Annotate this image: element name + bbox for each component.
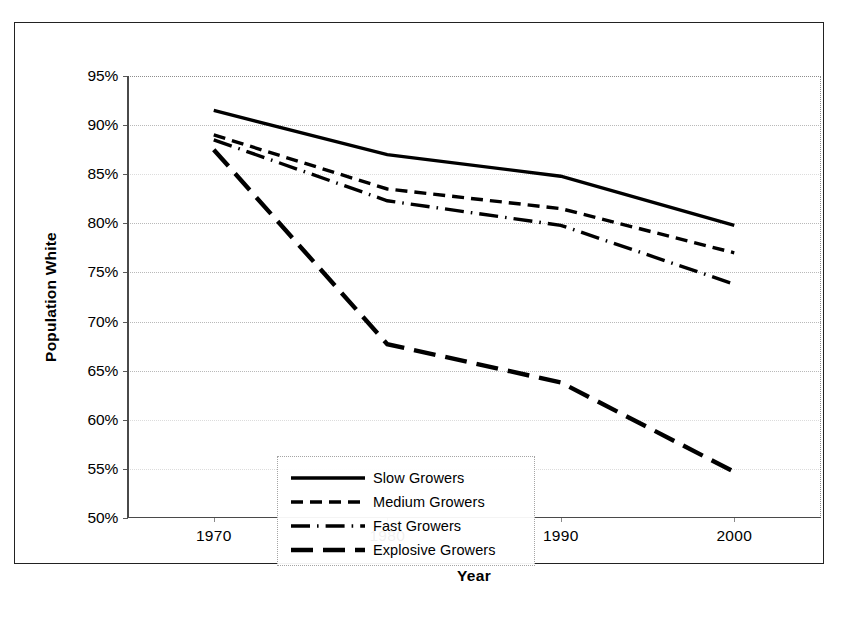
x-tick-label: 1970 bbox=[196, 527, 232, 545]
legend-label: Explosive Growers bbox=[373, 542, 496, 558]
y-tick-label: 75% bbox=[88, 263, 118, 281]
legend-label: Medium Growers bbox=[373, 494, 485, 510]
x-tick-label: 2000 bbox=[716, 527, 752, 545]
legend-label: Slow Growers bbox=[373, 470, 464, 486]
y-tick-label: 50% bbox=[88, 509, 118, 527]
legend-swatch-icon bbox=[290, 543, 366, 557]
legend-item[interactable]: Slow Growers bbox=[278, 466, 534, 490]
legend-item[interactable]: Fast Growers bbox=[278, 514, 534, 538]
y-tick-label: 55% bbox=[88, 460, 118, 478]
y-tick-label: 85% bbox=[88, 165, 118, 183]
series-line bbox=[214, 140, 735, 284]
y-axis-title: Population White bbox=[42, 232, 60, 362]
y-tick-label: 95% bbox=[88, 67, 118, 85]
series-layer bbox=[127, 76, 821, 518]
x-axis-title: Year bbox=[457, 567, 491, 585]
y-tick-label: 65% bbox=[88, 362, 118, 380]
x-tick-label: 1990 bbox=[543, 527, 579, 545]
plot-area: 50%55%60%65%70%75%80%85%90%95% 197019801… bbox=[127, 76, 821, 518]
chart-frame: Population White Year 50%55%60%65%70%75%… bbox=[14, 22, 824, 564]
y-tick-label: 90% bbox=[88, 116, 118, 134]
legend-label: Fast Growers bbox=[373, 518, 461, 534]
legend-swatch-icon bbox=[290, 519, 366, 533]
y-tick-mark bbox=[123, 518, 128, 519]
legend-item[interactable]: Explosive Growers bbox=[278, 538, 534, 562]
legend-swatch-icon bbox=[290, 471, 366, 485]
legend-swatch-icon bbox=[290, 495, 366, 509]
y-tick-label: 80% bbox=[88, 214, 118, 232]
legend: Slow GrowersMedium GrowersFast GrowersEx… bbox=[277, 456, 535, 566]
y-tick-label: 70% bbox=[88, 313, 118, 331]
legend-item[interactable]: Medium Growers bbox=[278, 490, 534, 514]
y-tick-label: 60% bbox=[88, 411, 118, 429]
